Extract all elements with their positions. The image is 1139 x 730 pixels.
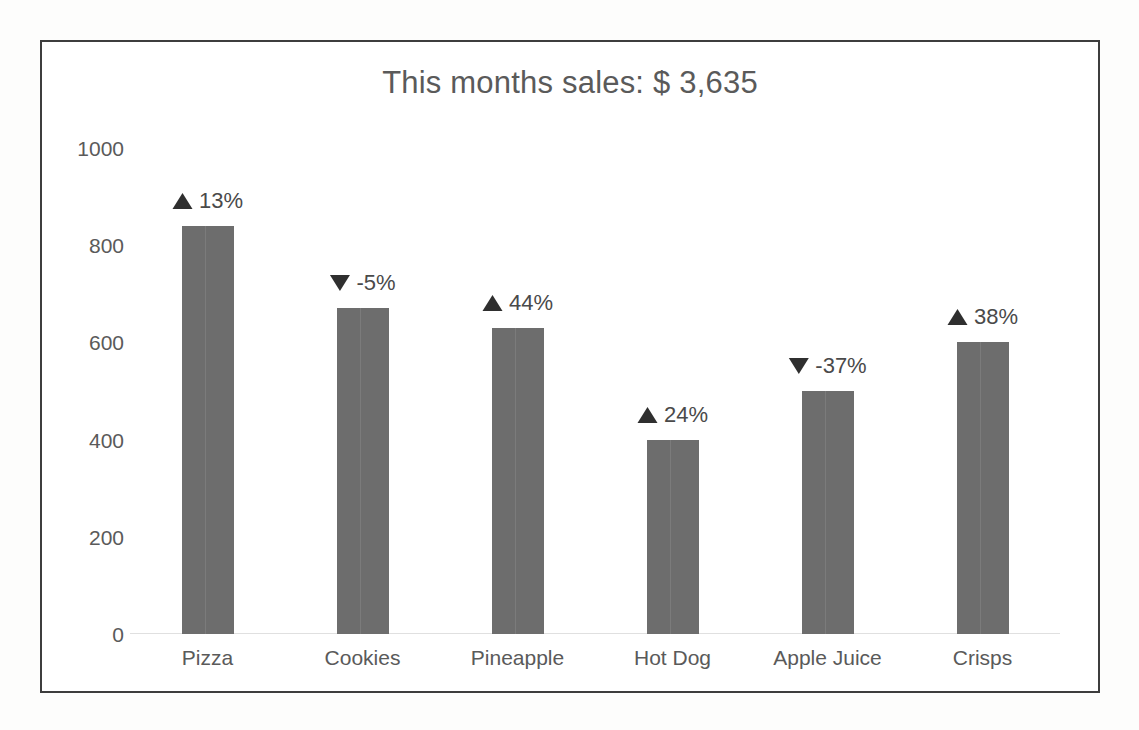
x-axis-tick-label: Pineapple — [440, 646, 595, 670]
up-triangle-icon — [947, 309, 967, 325]
page-background: This months sales: $ 3,635 0200400600800… — [0, 0, 1139, 730]
data-label-cookies: -5% — [329, 272, 395, 294]
data-label-value: 13% — [199, 190, 243, 212]
up-triangle-icon — [637, 407, 657, 423]
up-triangle-icon — [482, 295, 502, 311]
bar-slot: -5% — [285, 148, 440, 634]
y-axis-tick-label: 600 — [62, 332, 124, 353]
x-axis-tick-label: Hot Dog — [595, 646, 750, 670]
data-label-pineapple: 44% — [482, 292, 553, 314]
bar-slot: 38% — [905, 148, 1060, 634]
y-axis-tick-label: 1000 — [62, 138, 124, 159]
down-triangle-icon — [788, 358, 808, 374]
chart-frame: This months sales: $ 3,635 0200400600800… — [40, 40, 1100, 693]
bar-cookies[interactable] — [337, 308, 389, 634]
y-axis-tick-label: 0 — [62, 624, 124, 645]
data-label-value: -5% — [356, 272, 395, 294]
up-triangle-icon — [172, 193, 192, 209]
data-label-apple-juice: -37% — [788, 355, 866, 377]
y-axis-tick-label: 400 — [62, 429, 124, 450]
chart-title: This months sales: $ 3,635 — [42, 64, 1098, 102]
y-axis: 02004006008001000 — [62, 148, 124, 634]
x-axis: PizzaCookiesPineappleHot DogApple JuiceC… — [130, 640, 1060, 680]
bar-crisps[interactable] — [957, 342, 1009, 634]
data-label-value: 44% — [509, 292, 553, 314]
x-axis-tick-label: Cookies — [285, 646, 440, 670]
down-triangle-icon — [329, 275, 349, 291]
data-label-hot-dog: 24% — [637, 404, 708, 426]
plot-area: 13%-5%44%24%-37%38% — [130, 148, 1060, 634]
x-axis-tick-label: Crisps — [905, 646, 1060, 670]
bar-pizza[interactable] — [182, 226, 234, 634]
data-label-value: 38% — [974, 306, 1018, 328]
y-axis-tick-label: 200 — [62, 526, 124, 547]
bar-apple-juice[interactable] — [802, 391, 854, 634]
bar-slot: 24% — [595, 148, 750, 634]
x-axis-tick-label: Apple Juice — [750, 646, 905, 670]
data-label-value: 24% — [664, 404, 708, 426]
bar-slot: 13% — [130, 148, 285, 634]
bar-hot-dog[interactable] — [647, 440, 699, 634]
x-axis-tick-label: Pizza — [130, 646, 285, 670]
y-axis-tick-label: 800 — [62, 235, 124, 256]
data-label-value: -37% — [815, 355, 866, 377]
data-label-pizza: 13% — [172, 190, 243, 212]
bar-pineapple[interactable] — [492, 328, 544, 634]
bar-slot: 44% — [440, 148, 595, 634]
data-label-crisps: 38% — [947, 306, 1018, 328]
bar-slot: -37% — [750, 148, 905, 634]
